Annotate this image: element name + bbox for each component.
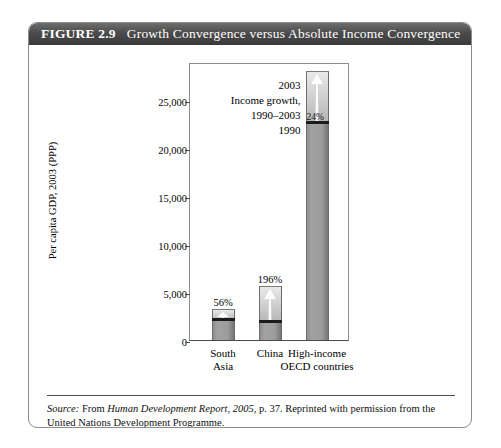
figure-title: Growth Convergence versus Absolute Incom… bbox=[127, 26, 461, 42]
x-axis-label-high-income-oecd-countries: High-incomeOECD countries bbox=[272, 347, 362, 372]
annotation-income-growth-line2: 1990–2003 bbox=[231, 108, 301, 123]
x-axis-label-line-1: High-income bbox=[272, 347, 362, 360]
source-text-before: From bbox=[79, 403, 107, 414]
growth-percent-label: 24% bbox=[307, 112, 324, 122]
growth-percent-label: 196% bbox=[240, 274, 300, 285]
bar-1990-divider bbox=[259, 320, 282, 323]
y-tick-mark-25000 bbox=[185, 102, 190, 103]
chart-area: Per capita GDP, 2003 (PPP) 05,00010,0001… bbox=[29, 45, 472, 385]
source-divider bbox=[47, 395, 455, 396]
bar-segment-growth bbox=[259, 286, 282, 322]
y-axis-title: Per capita GDP, 2003 (PPP) bbox=[47, 116, 58, 286]
x-axis-label-line-2: OECD countries bbox=[272, 360, 362, 373]
x-axis-label-line-2: Asia bbox=[178, 360, 268, 373]
y-tick-label-25000: 25,000 bbox=[158, 97, 187, 108]
growth-arrow-head-icon bbox=[311, 74, 323, 84]
y-tick-label-10000: 10,000 bbox=[158, 241, 187, 252]
bar-segment-1990 bbox=[259, 322, 282, 340]
y-tick-mark-10000 bbox=[185, 246, 190, 247]
annotation-2003: 2003 bbox=[231, 78, 301, 93]
bar-china[interactable] bbox=[259, 286, 282, 340]
source-italic-title: Human Development Report, 2005 bbox=[107, 403, 253, 414]
source-label: Source: bbox=[47, 403, 79, 414]
bar-segment-1990 bbox=[306, 123, 329, 340]
y-tick-label-15000: 15,000 bbox=[158, 193, 187, 204]
y-tick-mark-20000 bbox=[185, 150, 190, 151]
annotation-income-growth-line1: Income growth, bbox=[231, 93, 301, 108]
growth-arrow-stem-icon bbox=[268, 299, 272, 322]
annotation-1990: 1990 bbox=[231, 123, 301, 138]
bar-1990-divider bbox=[212, 318, 235, 321]
y-tick-label-5000: 5,000 bbox=[163, 289, 187, 300]
y-tick-mark-5000 bbox=[185, 294, 190, 295]
y-tick-mark-0 bbox=[185, 342, 190, 343]
bar-south-asia[interactable] bbox=[212, 309, 235, 340]
figure-number: FIGURE 2.9 bbox=[41, 26, 116, 42]
y-tick-mark-15000 bbox=[185, 198, 190, 199]
y-tick-label-20000: 20,000 bbox=[158, 145, 187, 156]
source-note: Source: From Human Development Report, 2… bbox=[47, 402, 451, 428]
growth-annotation: 2003 Income growth, 1990–2003 1990 bbox=[231, 78, 301, 138]
figure-container: FIGURE 2.9 Growth Convergence versus Abs… bbox=[28, 22, 472, 428]
growth-arrow-head-icon bbox=[264, 289, 276, 299]
growth-percent-label: 56% bbox=[193, 297, 253, 308]
bar-high-income-oecd-countries[interactable]: 24% bbox=[306, 71, 329, 340]
figure-title-bar: FIGURE 2.9 Growth Convergence versus Abs… bbox=[29, 23, 471, 45]
plot-frame: 05,00010,00015,00020,00025,000 56%196%24… bbox=[189, 63, 349, 341]
bar-segment-1990 bbox=[212, 320, 235, 340]
